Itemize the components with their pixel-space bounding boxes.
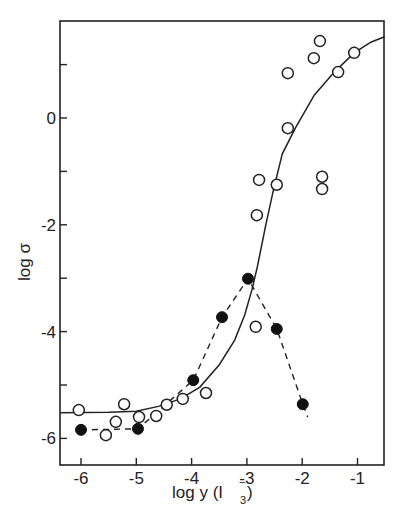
filled-circle-series <box>76 273 309 435</box>
plot-frame <box>60 21 384 465</box>
x-axis-label-subscript: 3 <box>240 494 246 506</box>
filled-data-point <box>271 323 282 334</box>
open-data-point <box>161 399 172 410</box>
open-data-point <box>110 416 121 427</box>
fitted-curve <box>60 37 385 413</box>
curve-path <box>60 37 385 413</box>
x-tick-label: -2 <box>295 469 310 488</box>
x-tick-label: -1 <box>350 469 365 488</box>
open-data-point <box>317 184 328 195</box>
open-data-point <box>254 174 265 185</box>
y-tick-label: 0 <box>47 109 56 128</box>
open-data-point <box>177 393 188 404</box>
open-data-point <box>349 47 360 58</box>
filled-data-point <box>76 424 87 435</box>
filled-data-point <box>132 423 143 434</box>
y-axis-label: log σ <box>15 243 34 281</box>
open-data-point <box>151 410 162 421</box>
x-axis-label-superscript: − <box>239 476 245 488</box>
dashed-path <box>81 279 308 430</box>
open-data-point <box>250 321 261 332</box>
y-tick-label: -4 <box>41 323 56 342</box>
open-data-point <box>271 179 282 190</box>
open-data-point <box>308 53 319 64</box>
open-data-point <box>282 68 293 79</box>
y-axis-ticks: 0-2-4-6 <box>41 65 67 449</box>
y-tick-label: -6 <box>41 429 56 448</box>
open-data-point <box>119 399 130 410</box>
filled-data-point <box>188 375 199 386</box>
y-tick-label: -2 <box>41 216 56 235</box>
x-tick-label: -6 <box>73 469 88 488</box>
open-data-point <box>100 430 111 441</box>
x-axis-label-close: ) <box>247 483 253 502</box>
x-tick-label: -5 <box>129 469 144 488</box>
filled-data-point <box>243 273 254 284</box>
open-circle-series <box>73 36 359 441</box>
filled-data-point <box>297 399 308 410</box>
chart: -6-5-4-3-2-1 0-2-4-6 log σ log y (I 3 − … <box>0 0 403 520</box>
open-data-point <box>200 388 211 399</box>
open-data-point <box>333 67 344 78</box>
open-data-point <box>251 210 262 221</box>
open-data-point <box>134 412 145 423</box>
filled-series-dashed-line <box>81 279 308 430</box>
filled-data-point <box>217 312 228 323</box>
open-data-point <box>317 171 328 182</box>
open-data-point <box>314 36 325 47</box>
open-data-point <box>282 123 293 134</box>
open-data-point <box>73 405 84 416</box>
x-axis-label-main: log y (I <box>172 483 223 502</box>
